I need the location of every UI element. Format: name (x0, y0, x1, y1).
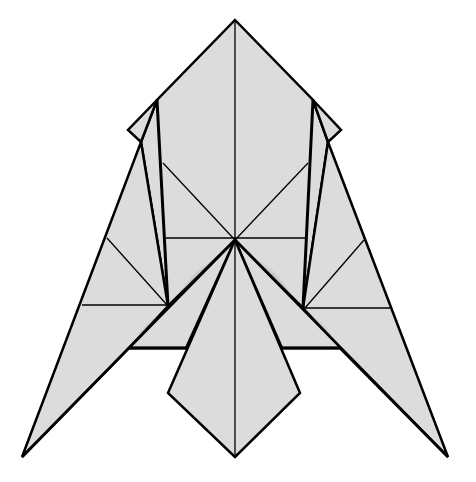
origami-figure (0, 0, 476, 482)
origami-diagram (0, 0, 476, 482)
left-wing (22, 142, 168, 457)
right-wing (303, 142, 448, 457)
